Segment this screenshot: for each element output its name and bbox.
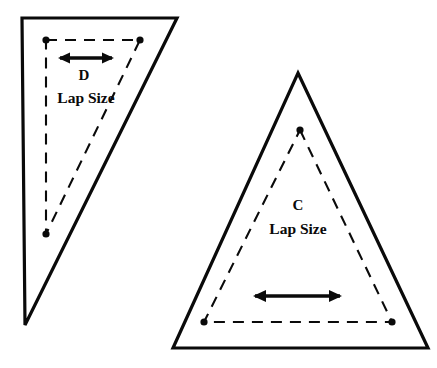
diagram-canvas: D Lap Size C Lap Size xyxy=(0,0,437,368)
vertex-dot-d-top-left xyxy=(42,36,49,43)
shape-caption-c: Lap Size xyxy=(269,220,326,237)
vertex-dot-c-apex xyxy=(296,126,303,133)
shape-letter-c: C xyxy=(293,197,304,213)
vertex-dot-d-top-right xyxy=(136,36,143,43)
vertex-dot-d-bottom xyxy=(42,230,49,237)
shape-group-c: C Lap Size xyxy=(173,73,428,348)
vertex-dot-c-bottom-right xyxy=(388,318,395,325)
lap-size-diagram: D Lap Size C Lap Size xyxy=(0,0,437,368)
shape-group-d: D Lap Size xyxy=(22,18,177,325)
shape-letter-d: D xyxy=(79,67,90,83)
shape-caption-d: Lap Size xyxy=(57,89,114,106)
vertex-dot-c-bottom-left xyxy=(200,318,207,325)
